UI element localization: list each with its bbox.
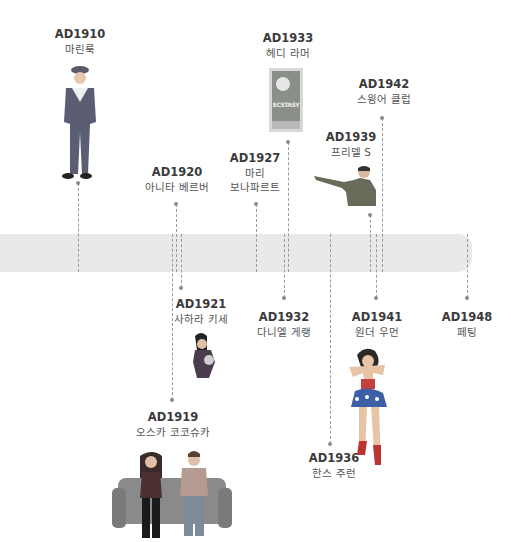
event-1910: AD1910 마린룩 bbox=[55, 27, 105, 56]
event-year: AD1948 bbox=[442, 310, 492, 325]
wonder-woman-figure bbox=[343, 345, 403, 467]
dot-1936 bbox=[328, 442, 332, 446]
event-1948: AD1948 페팅 bbox=[442, 310, 492, 339]
event-year: AD1939 bbox=[326, 130, 376, 145]
dot-1920 bbox=[174, 202, 178, 206]
dot-1942 bbox=[380, 116, 384, 120]
dot-1948 bbox=[465, 296, 469, 300]
event-year: AD1920 bbox=[145, 165, 208, 180]
connector-1919 bbox=[172, 234, 173, 400]
event-year: AD1910 bbox=[55, 27, 105, 42]
couple-on-sofa bbox=[112, 448, 232, 542]
event-year: AD1941 bbox=[352, 310, 402, 325]
event-name: 프리델 S bbox=[326, 145, 376, 159]
timeline-band bbox=[0, 234, 472, 272]
poster-title: ECSTASY bbox=[272, 101, 300, 108]
event-name: 마린룩 bbox=[55, 42, 105, 56]
event-year: AD1933 bbox=[263, 31, 313, 46]
event-name: 오스카 코코슈카 bbox=[136, 425, 209, 439]
dot-1939 bbox=[368, 213, 372, 217]
event-year: AD1919 bbox=[136, 410, 209, 425]
connector-1948 bbox=[467, 234, 468, 298]
event-name: 한스 주런 bbox=[309, 466, 359, 480]
event-year: AD1942 bbox=[357, 77, 410, 92]
connector-1942 bbox=[382, 118, 383, 272]
sailor-outfit-figure bbox=[56, 62, 104, 182]
dot-1919 bbox=[170, 398, 174, 402]
event-1927: AD1927 마리 보나파르트 bbox=[230, 151, 280, 194]
event-name: 페팅 bbox=[442, 325, 492, 339]
event-1932: AD1932 다니엘 게랭 bbox=[257, 310, 310, 339]
dot-1921 bbox=[179, 286, 183, 290]
saluting-man-figure bbox=[314, 164, 380, 206]
event-name: 사하라 키세 bbox=[174, 312, 227, 326]
woman-figure bbox=[191, 332, 217, 382]
connector-1939 bbox=[370, 215, 371, 272]
dot-1932 bbox=[282, 296, 286, 300]
event-year: AD1927 bbox=[230, 151, 280, 166]
dot-1941 bbox=[374, 296, 378, 300]
event-name-line-2: 보나파르트 bbox=[230, 180, 280, 194]
connector-1936 bbox=[330, 234, 331, 444]
connector-1933 bbox=[288, 142, 289, 272]
event-name: 스윙어 클럽 bbox=[357, 92, 410, 106]
event-name-line-1: 마리 bbox=[230, 166, 280, 180]
event-name: 아니타 베르버 bbox=[145, 180, 208, 194]
event-1919: AD1919 오스카 코코슈카 bbox=[136, 410, 209, 439]
event-1933: AD1933 헤디 라머 bbox=[263, 31, 313, 60]
connector-1920 bbox=[176, 204, 177, 272]
event-year: AD1921 bbox=[174, 297, 227, 312]
event-1942: AD1942 스윙어 클럽 bbox=[357, 77, 410, 106]
connector-1927 bbox=[256, 204, 257, 272]
event-1920: AD1920 아니타 베르버 bbox=[145, 165, 208, 194]
event-name: 헤디 라머 bbox=[263, 46, 313, 60]
connector-1941 bbox=[376, 234, 377, 298]
event-1941: AD1941 원더 우먼 bbox=[352, 310, 402, 339]
dot-1927 bbox=[254, 202, 258, 206]
connector-1921 bbox=[181, 234, 182, 288]
event-year: AD1932 bbox=[257, 310, 310, 325]
connector-1932 bbox=[284, 234, 285, 298]
event-name: 원더 우먼 bbox=[352, 325, 402, 339]
connector-1910 bbox=[78, 183, 79, 272]
event-name: 다니엘 게랭 bbox=[257, 325, 310, 339]
event-1921: AD1921 사하라 키세 bbox=[174, 297, 227, 326]
event-1939: AD1939 프리델 S bbox=[326, 130, 376, 159]
ecstasy-movie-poster: ECSTASY bbox=[269, 68, 303, 132]
dot-1933 bbox=[286, 140, 290, 144]
